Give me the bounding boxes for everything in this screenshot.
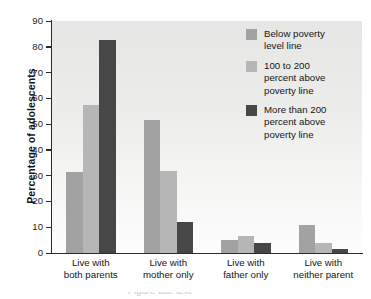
bar	[177, 222, 194, 253]
legend: Below povertylevel line100 to 200percent…	[246, 28, 358, 148]
legend-label-line: More than 200	[264, 104, 358, 116]
y-axis-title: Percentage of adolescents	[25, 26, 37, 246]
legend-swatch-icon	[246, 105, 257, 116]
bar	[99, 40, 116, 253]
legend-label-line: poverty line	[264, 85, 358, 97]
legend-label-line: poverty line	[264, 129, 358, 141]
clipped-caption: Figure title text	[0, 292, 371, 299]
bar	[332, 249, 349, 253]
bar	[66, 172, 83, 253]
bar	[144, 120, 161, 253]
x-category-label-line: father only	[207, 269, 285, 281]
y-tick-20: 20	[0, 195, 52, 207]
legend-label-line: Below poverty	[264, 28, 358, 40]
y-tick-70: 70	[0, 67, 52, 79]
bar	[83, 105, 100, 253]
y-tick-90: 90	[0, 15, 52, 27]
y-tick-30: 30	[0, 170, 52, 182]
y-tick-0: 0	[0, 247, 52, 259]
legend-swatch-icon	[246, 61, 257, 72]
legend-item: More than 200percent abovepoverty line	[246, 104, 358, 141]
y-tick-label: 0	[38, 247, 43, 259]
x-category-label: Live withboth parents	[52, 257, 130, 282]
y-tick-80: 80	[0, 41, 52, 53]
legend-swatch-icon	[246, 29, 257, 40]
bar-chart: Percentage of adolescents 01020304050607…	[0, 0, 371, 299]
x-category-label-line: Live with	[52, 257, 130, 269]
legend-label-line: percent above	[264, 116, 358, 128]
x-category-label-line: mother only	[130, 269, 208, 281]
x-axis-category-labels: Live withboth parentsLive withmother onl…	[52, 257, 362, 291]
y-tick-10: 10	[0, 221, 52, 233]
x-category-label-line: Live with	[130, 257, 208, 269]
y-tick-label: 60	[32, 92, 43, 104]
bar	[315, 243, 332, 253]
x-category-label-line: both parents	[52, 269, 130, 281]
y-tick-label: 70	[32, 67, 43, 79]
bar	[254, 243, 271, 253]
x-category-label: Live withneither parent	[285, 257, 363, 282]
y-tick-40: 40	[0, 144, 52, 156]
x-category-label-line: neither parent	[285, 269, 363, 281]
x-axis-line	[51, 253, 363, 254]
legend-label-line: percent above	[264, 72, 358, 84]
x-category-label: Live withfather only	[207, 257, 285, 282]
y-tick-label: 40	[32, 144, 43, 156]
y-tick-label: 90	[32, 15, 43, 27]
y-tick-label: 80	[32, 41, 43, 53]
y-tick-label: 20	[32, 195, 43, 207]
y-tick-label: 30	[32, 170, 43, 182]
clipped-caption-text: Figure title text	[128, 292, 192, 296]
y-tick-50: 50	[0, 118, 52, 130]
bar	[221, 240, 238, 253]
bar	[299, 225, 316, 253]
legend-label-line: 100 to 200	[264, 60, 358, 72]
bar	[160, 171, 177, 253]
legend-item: Below povertylevel line	[246, 28, 358, 53]
legend-item: 100 to 200percent abovepoverty line	[246, 60, 358, 97]
y-tick-60: 60	[0, 92, 52, 104]
y-tick-label: 10	[32, 221, 43, 233]
y-tick-label: 50	[32, 118, 43, 130]
bar	[238, 236, 255, 253]
x-category-label-line: Live with	[285, 257, 363, 269]
x-category-label-line: Live with	[207, 257, 285, 269]
x-category-label: Live withmother only	[130, 257, 208, 282]
legend-label-line: level line	[264, 40, 358, 52]
